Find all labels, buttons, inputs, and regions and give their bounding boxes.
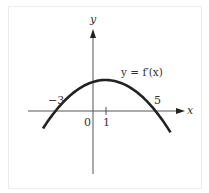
y-axis-arrow-icon xyxy=(90,29,96,38)
graph: y x y = f′(x) −3 0 1 5 xyxy=(0,0,209,193)
tick-label-neg3: −3 xyxy=(48,94,64,107)
x-axis-arrow-icon xyxy=(176,108,185,114)
tick-label-1: 1 xyxy=(103,116,110,129)
y-axis-label: y xyxy=(89,13,97,26)
origin-label: 0 xyxy=(84,116,91,129)
tick-label-5: 5 xyxy=(154,94,161,107)
x-axis-label: x xyxy=(187,104,194,117)
curve-label: y = f′(x) xyxy=(120,66,163,78)
